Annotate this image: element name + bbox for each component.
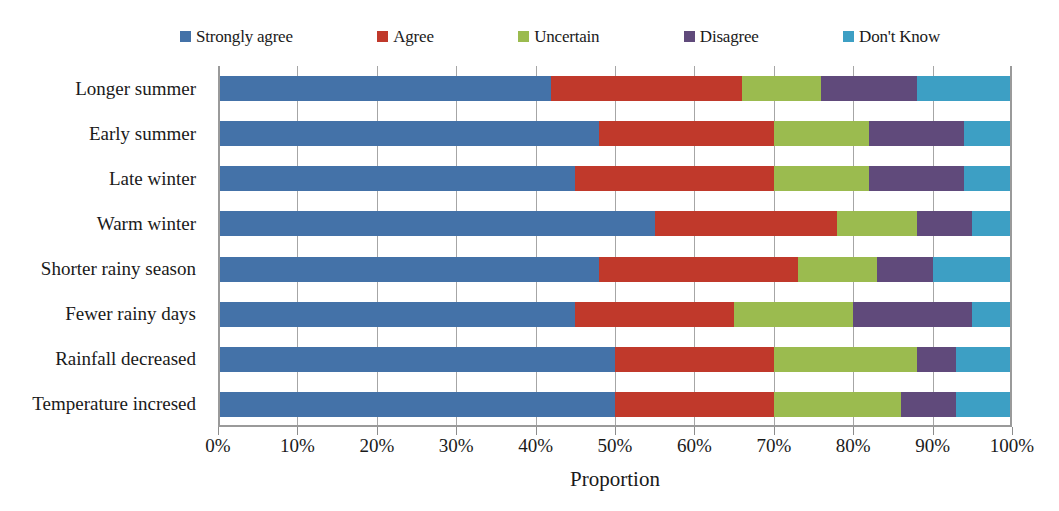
legend-swatch-icon	[180, 31, 191, 42]
category-label: Late winter	[0, 156, 208, 201]
x-tick-label: 60%	[677, 434, 712, 458]
category-label: Longer summer	[0, 66, 208, 111]
legend-item[interactable]: Strongly agree	[180, 28, 293, 45]
legend-item-label: Strongly agree	[196, 28, 293, 45]
stacked-bar-chart: Strongly agreeAgreeUncertainDisagreeDon'…	[0, 0, 1059, 511]
legend-swatch-icon	[377, 31, 388, 42]
category-label: Temperature incresed	[0, 382, 208, 427]
legend-swatch-icon	[518, 31, 529, 42]
plot-area	[218, 66, 1012, 427]
category-label: Shorter rainy season	[0, 247, 208, 292]
legend-item-label: Agree	[393, 28, 434, 45]
category-label: Fewer rainy days	[0, 292, 208, 337]
x-tick-label: 20%	[359, 434, 394, 458]
x-tick-label: 10%	[280, 434, 315, 458]
x-axis-labels: 0%10%20%30%40%50%60%70%80%90%100%	[218, 434, 1012, 460]
x-tick-label: 50%	[598, 434, 633, 458]
category-axis-labels: Longer summerEarly summerLate winterWarm…	[0, 66, 208, 427]
legend-item[interactable]: Disagree	[684, 28, 759, 45]
category-label: Early summer	[0, 111, 208, 156]
category-label: Warm winter	[0, 201, 208, 246]
x-tick-label: 70%	[756, 434, 791, 458]
category-label: Rainfall decreased	[0, 337, 208, 382]
legend-item-label: Don't Know	[859, 28, 940, 45]
legend-item[interactable]: Uncertain	[518, 28, 599, 45]
legend-item-label: Disagree	[700, 28, 759, 45]
x-tick-label: 0%	[205, 434, 230, 458]
x-tick-label: 90%	[915, 434, 950, 458]
legend-item[interactable]: Don't Know	[843, 28, 940, 45]
x-tick-label: 30%	[439, 434, 474, 458]
legend-swatch-icon	[684, 31, 695, 42]
x-tick-label: 40%	[518, 434, 553, 458]
x-axis-title: Proportion	[218, 466, 1012, 492]
legend-item-label: Uncertain	[534, 28, 599, 45]
plot-frame	[218, 66, 1012, 427]
legend-swatch-icon	[843, 31, 854, 42]
x-tick-label: 100%	[990, 434, 1034, 458]
chart-legend: Strongly agreeAgreeUncertainDisagreeDon'…	[180, 24, 940, 48]
x-tick-label: 80%	[836, 434, 871, 458]
legend-item[interactable]: Agree	[377, 28, 434, 45]
